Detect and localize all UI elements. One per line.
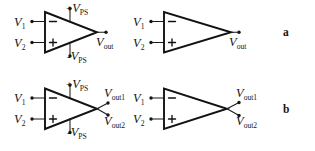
b-right-input2-terminal (149, 117, 152, 120)
b-left-input2-label: V2 (14, 112, 26, 128)
a-left-input1-label: V1 (14, 15, 26, 31)
a-right-input1-terminal (149, 20, 152, 23)
a-right-input2-terminal (149, 41, 152, 44)
a-right-output-label: Vout (229, 35, 247, 51)
figure-container: V1 V2 +VPS -VPS Vout V1 V2 Vout a (0, 0, 315, 151)
b-right-output1-lead (227, 103, 239, 109)
circuit-a-right: V1 V2 Vout (133, 12, 247, 53)
b-right-output2-label: Vout2 (236, 114, 257, 130)
circuit-b-right: V1 V2 Vout1 Vout2 (133, 86, 257, 130)
b-right-output1-label: Vout1 (236, 86, 257, 102)
b-left-output1-lead (97, 103, 108, 109)
a-right-output-terminal (237, 31, 240, 34)
b-left-input1-label: V1 (14, 91, 26, 107)
a-right-input2-label: V2 (133, 36, 145, 52)
b-left-output1-label: Vout1 (104, 86, 125, 102)
a-right-amplifier-body (164, 12, 231, 53)
b-right-output1-terminal (237, 101, 240, 104)
opamp-symbols-figure: V1 V2 +VPS -VPS Vout V1 V2 Vout a (0, 0, 315, 151)
panel-label-b: b (283, 103, 289, 115)
circuit-a-left: V1 V2 +VPS -VPS Vout (14, 1, 114, 65)
b-left-input2-terminal (30, 117, 33, 120)
a-left-input2-label: V2 (14, 36, 26, 52)
b-left-positive-supply-label: +VPS (66, 77, 88, 93)
a-left-output-label: Vout (96, 35, 114, 51)
b-right-amplifier-body (164, 89, 227, 130)
b-left-input1-terminal (30, 96, 33, 99)
b-right-input1-label: V1 (133, 91, 145, 107)
b-left-negative-supply-label: -VPS (67, 125, 87, 141)
a-left-positive-supply-label: +VPS (66, 1, 88, 17)
circuit-b-left: V1 V2 +VPS -VPS Vout1 Vout2 (14, 77, 125, 141)
b-left-output2-label: Vout2 (104, 114, 125, 130)
panel-label-a: a (283, 26, 289, 38)
b-right-input1-terminal (149, 96, 152, 99)
a-left-input1-terminal (30, 20, 33, 23)
a-left-input2-terminal (30, 41, 33, 44)
a-left-negative-supply-label: -VPS (67, 49, 87, 65)
b-left-output1-terminal (106, 101, 109, 104)
a-left-output-terminal (104, 31, 107, 34)
b-right-input2-label: V2 (133, 112, 145, 128)
a-right-input1-label: V1 (133, 15, 145, 31)
